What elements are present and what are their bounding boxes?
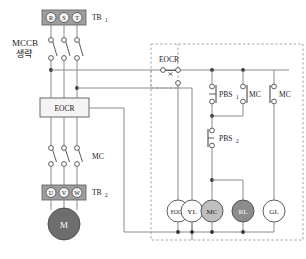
mc-contactor-label: MC [92, 152, 104, 161]
pbs2-upper-terminal [210, 128, 215, 133]
pbs1-lower-terminal [210, 99, 215, 104]
terminal-v-label: V [62, 190, 67, 196]
motor-label: M [60, 220, 68, 230]
terminal-r-label: R [49, 15, 53, 21]
eocr-contact-label: EOCR [159, 55, 179, 64]
tb1-label: TB [92, 13, 102, 22]
eocr-contact-nc-terminal [176, 68, 181, 73]
wire-tap-to-rl-coil [212, 180, 243, 200]
mc-main-contact-t [75, 146, 83, 167]
coil-mc: MC [201, 200, 223, 222]
mccb-pole-r [49, 38, 57, 61]
lamp-gl: GL [263, 200, 285, 222]
terminal-w-label: W [74, 190, 80, 196]
eocr-contact-actuator-icon [169, 73, 173, 76]
mc-main-contact-s [62, 146, 70, 167]
mc-main-contact-r [49, 146, 57, 167]
mc-aux1-upper-terminal [241, 84, 246, 89]
lamp-rl-label: RL [239, 208, 248, 216]
pbs2-pushbutton[interactable] [208, 128, 214, 148]
tb2-label: TB [92, 188, 102, 197]
schematic-canvas: R S T TB 1 MCCB 생략 [0, 0, 306, 259]
coil-mc-label: MC [207, 208, 218, 216]
lamp-yl-label: YL [187, 208, 196, 216]
node-bus-rl [241, 230, 245, 234]
pbs2-subscript: 2 [236, 138, 239, 144]
terminal-t-label: T [75, 15, 79, 21]
pbs1-label: PBS [219, 90, 232, 99]
mc-aux-contact-2 [270, 84, 276, 104]
tb2-subscript: 2 [105, 192, 108, 198]
eocr-contact-no-terminal [176, 81, 181, 86]
node-bus-eocr [176, 230, 180, 234]
mc-aux2-label: MC [279, 90, 291, 99]
mc-aux1-label: MC [249, 90, 261, 99]
mc-aux2-lower-terminal [272, 99, 277, 104]
eocr-box-label: EOCR [54, 104, 74, 113]
pbs1-upper-terminal [210, 84, 215, 89]
lamp-yl: YL [181, 200, 203, 222]
tb1-subscript: 1 [105, 17, 108, 23]
schematic-diagram: R S T TB 1 MCCB 생략 [0, 0, 306, 259]
pbs2-label: PBS [219, 134, 232, 143]
mc-aux-contact-1 [241, 84, 247, 104]
lamp-rl: RL [232, 200, 254, 222]
mccb-pole-s [62, 38, 70, 61]
pbs1-pushbutton[interactable] [209, 84, 216, 104]
mc-aux1-lower-terminal [241, 99, 246, 104]
node-bus-yl [190, 230, 194, 234]
mc-aux2-upper-terminal [272, 84, 277, 89]
mccb-pole-t [75, 38, 83, 61]
pbs1-subscript: 1 [236, 94, 239, 100]
eocr-contact-subregion [151, 44, 178, 88]
mccb-label-line2: 생략 [16, 48, 32, 59]
node-bus-mc [210, 230, 214, 234]
mccb-label-line1: MCCB [12, 38, 38, 48]
lamp-gl-label: GL [269, 208, 278, 216]
terminal-u-label: U [49, 190, 54, 196]
eocr-contact-common-terminal [161, 68, 166, 73]
pbs2-lower-terminal [210, 143, 215, 148]
terminal-s-label: S [62, 15, 65, 21]
